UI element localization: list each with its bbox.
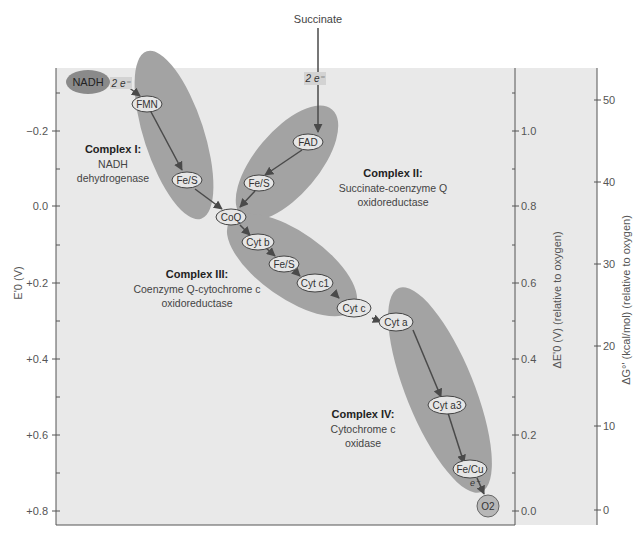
left-tick-label: +0.8 <box>26 505 48 517</box>
node-cyt-a-label: Cyt a <box>384 317 408 328</box>
node-fes-1-label: Fe/S <box>176 175 197 186</box>
middle-tick-label: 0.6 <box>521 277 536 289</box>
middle-axis-title: ΔE'0 (V) (relative to oxygen) <box>551 231 563 368</box>
left-tick-label: +0.2 <box>26 277 48 289</box>
complex-3-title: Complex III: <box>166 268 228 280</box>
node-fes-2-label: Fe/S <box>248 178 269 189</box>
middle-tick-label: 0.8 <box>521 200 536 212</box>
complex-2-title: Complex II: <box>363 167 422 179</box>
node-cyt-b: Cyt b <box>242 234 274 250</box>
node-cyt-c1-label: Cyt c1 <box>301 278 330 289</box>
left-tick-label: +0.6 <box>26 429 48 441</box>
succinate-label: Succinate <box>294 13 342 25</box>
right-axis-labels: 50 40 30 20 10 0 <box>603 94 615 516</box>
node-o2-label: O2 <box>481 501 495 512</box>
complex-1-name-line2: dehydrogenase <box>77 172 150 184</box>
complex-3-name-line2: oxidoreductase <box>161 297 232 309</box>
nadh-electrons: 2 e⁻ <box>111 78 132 89</box>
node-cyt-a: Cyt a <box>379 313 413 331</box>
node-fecu-label: Fe/Cu <box>456 464 483 475</box>
node-cyt-a3-label: Cyt a3 <box>433 400 462 411</box>
right-tick-label: 10 <box>603 420 615 432</box>
right-axis-title: ΔG°' (kcal/mol) (relative to oxygen) <box>620 215 632 385</box>
complex-4-name-line1: Cytochrome c <box>331 423 396 435</box>
node-fes-complex-2: Fe/S <box>244 175 274 191</box>
node-cyt-c-label: Cyt c <box>343 303 366 314</box>
node-fes-complex-3: Fe/S <box>269 256 299 272</box>
complex-1-title: Complex I: <box>85 143 141 155</box>
left-axis-title: E'0 (V) <box>12 266 24 299</box>
node-fes-complex-1: Fe/S <box>172 172 202 188</box>
etc-diagram: −0.2 0.0 +0.2 +0.4 +0.6 +0.8 E'0 (V) 1.0… <box>0 0 641 538</box>
right-tick-label: 30 <box>603 258 615 270</box>
node-fad: FAD <box>293 134 323 150</box>
node-nadh: NADH <box>66 70 110 94</box>
left-tick-label: +0.4 <box>26 353 48 365</box>
final-electron-label: e⁻ <box>470 478 481 488</box>
left-tick-label: 0.0 <box>33 200 48 212</box>
node-fmn-label: FMN <box>136 99 158 110</box>
complex-2-name-line1: Succinate-coenzyme Q <box>339 182 448 194</box>
node-fmn: FMN <box>132 96 162 112</box>
node-fad-label: FAD <box>298 137 317 148</box>
node-cyt-b-label: Cyt b <box>246 237 270 248</box>
complex-4-name-line2: oxidase <box>345 437 381 449</box>
middle-tick-label: 0.4 <box>521 353 536 365</box>
node-coq: CoQ <box>216 209 246 225</box>
middle-tick-label: 0.0 <box>521 505 536 517</box>
left-tick-label: −0.2 <box>26 125 48 137</box>
node-fes-3-label: Fe/S <box>273 259 294 270</box>
complex-1-name-line1: NADH <box>98 158 128 170</box>
complex-3-name-line1: Coenzyme Q-cytochrome c <box>133 283 260 295</box>
node-cyt-a3: Cyt a3 <box>428 396 466 414</box>
right-tick-label: 20 <box>603 340 615 352</box>
succinate-electrons: 2 e⁻ <box>305 73 326 84</box>
right-tick-label: 40 <box>603 176 615 188</box>
left-axis-labels: −0.2 0.0 +0.2 +0.4 +0.6 +0.8 <box>26 125 48 517</box>
node-o2: O2 <box>477 495 499 517</box>
middle-tick-label: 0.2 <box>521 429 536 441</box>
right-tick-label: 50 <box>603 94 615 106</box>
node-cyt-c: Cyt c <box>337 299 371 317</box>
complex-4-title: Complex IV: <box>332 408 395 420</box>
middle-tick-label: 1.0 <box>521 125 536 137</box>
complex-2-name-line2: oxidoreductase <box>357 196 428 208</box>
node-coq-label: CoQ <box>221 212 242 223</box>
node-cyt-c1: Cyt c1 <box>297 274 333 292</box>
right-tick-label: 0 <box>603 504 609 516</box>
node-fecu: Fe/Cu <box>453 460 487 478</box>
node-nadh-label: NADH <box>72 76 103 88</box>
